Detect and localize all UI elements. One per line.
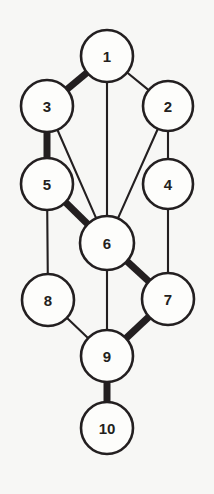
node-label-3: 3	[43, 98, 51, 115]
node-label-8: 8	[44, 292, 52, 309]
edge-1-3	[66, 72, 88, 90]
node-8[interactable]: 8	[22, 274, 74, 326]
node-9[interactable]: 9	[81, 330, 133, 382]
edge-5-6	[65, 201, 89, 225]
node-label-5: 5	[43, 176, 51, 193]
node-2[interactable]: 2	[143, 81, 193, 131]
node-label-7: 7	[164, 291, 172, 308]
node-10[interactable]: 10	[81, 402, 133, 454]
edge-7-9	[125, 316, 150, 339]
node-label-6: 6	[103, 235, 111, 252]
node-1[interactable]: 1	[81, 30, 133, 82]
diagram-page: 12345678910	[0, 0, 214, 494]
node-label-10: 10	[99, 420, 116, 437]
node-4[interactable]: 4	[143, 159, 193, 209]
edge-1-2	[126, 72, 149, 91]
node-3[interactable]: 3	[21, 80, 73, 132]
node-5[interactable]: 5	[21, 158, 73, 210]
node-7[interactable]: 7	[142, 273, 194, 325]
node-6[interactable]: 6	[80, 216, 134, 270]
node-label-1: 1	[103, 48, 111, 65]
node-label-2: 2	[164, 98, 172, 115]
edge-5-8	[47, 209, 48, 275]
edge-8-9	[66, 317, 89, 339]
edge-6-7	[126, 260, 150, 282]
tree-of-life-diagram: 12345678910	[0, 0, 214, 494]
node-label-4: 4	[164, 176, 173, 193]
node-label-9: 9	[103, 348, 111, 365]
